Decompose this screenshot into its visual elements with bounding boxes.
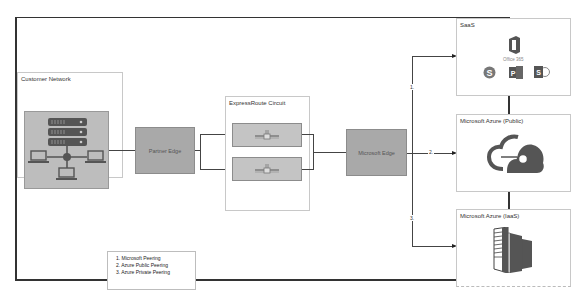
route-1-line (412, 56, 455, 57)
svg-text:S: S (536, 69, 541, 76)
microsoft-edge-box: Microsoft Edge (346, 129, 407, 176)
azure-iaas-label: Microsoft Azure (IaaS) (460, 213, 519, 219)
expressroute-connection-2 (232, 157, 302, 181)
route-3-line (412, 246, 455, 247)
link-customer-partner (109, 150, 135, 151)
expressroute-panel: ExpressRoute Circuit (225, 96, 310, 211)
route-3-label: 3. (409, 215, 415, 221)
saas-label: SaaS (460, 22, 475, 28)
expressroute-label: ExpressRoute Circuit (229, 100, 285, 106)
azure-public-panel: Microsoft Azure (Public) (456, 114, 571, 192)
pipe-connector-icon (255, 164, 279, 174)
skype-icon: S (483, 66, 496, 79)
route-1-label: 1. (409, 84, 415, 90)
link-partner-fork-v (200, 134, 201, 170)
microsoft-edge-label: Microsoft Edge (358, 150, 395, 156)
svg-text:P: P (511, 70, 516, 77)
legend-item-azure-public-peering: 2. Azure Public Peering (116, 262, 195, 269)
svg-text:S: S (486, 68, 492, 78)
expressroute-connection-1 (232, 123, 302, 147)
server-rack-icon (492, 227, 538, 273)
azure-iaas-panel: Microsoft Azure (IaaS) (456, 209, 571, 287)
legend-item-azure-private-peering: 3. Azure Private Peering (116, 269, 195, 276)
saas-panel: SaaS Office 365 S P S (456, 18, 571, 96)
partner-edge-box: Partner Edge (135, 127, 195, 174)
peering-legend: 1. Microsoft Peering 2. Azure Public Pee… (107, 251, 196, 290)
legend-item-microsoft-peering: 1. Microsoft Peering (116, 255, 195, 262)
project-icon: P (509, 66, 523, 79)
office-365-label: Office 365 (503, 57, 523, 62)
azure-cloud-icon (485, 133, 547, 175)
route-2-label: 2. (428, 149, 434, 155)
partner-edge-label: Partner Edge (149, 148, 181, 154)
office-365-icon (507, 36, 521, 54)
pipe-connector-icon (255, 130, 279, 140)
customer-network-label: Customer Network (21, 76, 71, 82)
link-er-msedge (313, 152, 347, 153)
azure-public-label: Microsoft Azure (Public) (460, 118, 523, 124)
sharepoint-icon: S (534, 65, 550, 79)
network-servers-laptops-icon (24, 111, 109, 189)
